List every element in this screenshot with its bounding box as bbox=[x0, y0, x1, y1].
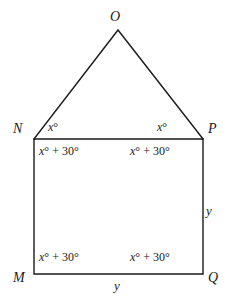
vertex-label-N: N bbox=[13, 122, 23, 136]
angle-expression: ° + 30° bbox=[135, 144, 169, 158]
angle-label-rect-top-right: x° + 30° bbox=[130, 145, 170, 157]
figure-linework bbox=[0, 0, 230, 302]
triangle-sides-NOP bbox=[34, 30, 203, 139]
angle-label-triangle-base-left: x° bbox=[48, 121, 58, 133]
vertex-label-P: P bbox=[208, 122, 217, 136]
vertex-label-O: O bbox=[110, 10, 120, 24]
angle-label-triangle-base-right: x° bbox=[157, 121, 167, 133]
angle-degree-symbol: ° bbox=[162, 120, 167, 134]
side-label-MQ: y bbox=[114, 279, 120, 292]
angle-expression: ° + 30° bbox=[44, 144, 78, 158]
angle-label-rect-top-left: x° + 30° bbox=[39, 145, 79, 157]
vertex-label-M: M bbox=[13, 271, 25, 285]
vertex-label-Q: Q bbox=[208, 271, 218, 285]
geometry-figure: O N P M Q x° x° x° + 30° x° + 30° x° + 3… bbox=[0, 0, 230, 302]
angle-label-rect-bottom-right: x° + 30° bbox=[130, 251, 170, 263]
angle-expression: ° + 30° bbox=[44, 250, 78, 264]
angle-label-rect-bottom-left: x° + 30° bbox=[39, 251, 79, 263]
angle-expression: ° + 30° bbox=[135, 250, 169, 264]
side-label-PQ: y bbox=[206, 204, 212, 217]
angle-degree-symbol: ° bbox=[53, 120, 58, 134]
